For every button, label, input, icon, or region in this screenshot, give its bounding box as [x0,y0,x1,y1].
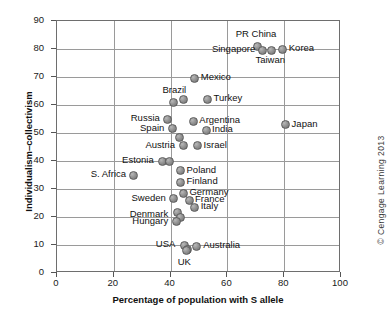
y-axis-tick-mark [51,244,56,245]
gridline-vertical [227,21,228,271]
data-point-label: UK [178,257,191,267]
gridline-horizontal [57,161,339,162]
data-point-label: Brazil [162,85,186,95]
data-point-label: Israel [204,140,227,150]
data-point [163,115,172,124]
data-point [169,98,178,107]
y-axis-tick-mark [51,132,56,133]
data-point-label: Finland [187,176,218,186]
data-point-label: India [212,124,233,134]
data-point-label: Spain [140,123,164,133]
data-point-label: Taiwan [255,55,285,65]
data-point-label: Austria [145,140,175,150]
gridline-horizontal [57,217,339,218]
data-point-label: Singapore [212,44,255,54]
x-axis-tick-label: 60 [206,278,246,288]
gridline-horizontal [57,133,339,134]
gridline-horizontal [57,105,339,106]
data-point [129,171,138,180]
data-point [179,141,188,150]
data-point [203,95,212,104]
data-point [192,242,201,251]
data-point [278,45,287,54]
data-point [165,157,174,166]
gridline-vertical [114,21,115,271]
y-axis-tick-mark [51,216,56,217]
copyright-credit: © Cengage Learning 2013 [376,100,386,280]
x-axis-tick-label: 100 [320,278,360,288]
x-axis-tick-label: 80 [263,278,303,288]
data-point-label: Mexico [201,72,231,82]
data-point-label: Italy [201,201,218,211]
data-point-label: Japan [292,119,318,129]
data-point [202,126,211,135]
data-point [182,246,191,255]
data-point [176,178,185,187]
data-point-label: Poland [187,165,217,175]
x-axis-tick-label: 20 [93,278,133,288]
data-point-label: Sweden [131,193,165,203]
scatter-chart: 0102030405060708090020406080100 Percenta… [0,0,390,322]
y-axis-tick-mark [51,48,56,49]
data-point-label: Australia [203,240,240,250]
x-axis-title: Percentage of population with S allele [56,294,340,305]
y-axis-tick-label: 90 [14,15,44,25]
y-axis-title: Individualism–collectivism [23,32,34,272]
data-point [168,124,177,133]
data-point [190,203,199,212]
data-point [172,217,181,226]
data-point-label: USA [156,239,176,249]
y-axis-tick-mark [51,104,56,105]
y-axis-tick-mark [51,188,56,189]
y-axis-tick-mark [51,20,56,21]
x-axis-tick-label: 0 [36,278,76,288]
data-point [179,95,188,104]
data-point-label: Estonia [122,155,154,165]
data-point-label: Hungary [132,216,168,226]
y-axis-tick-mark [51,160,56,161]
data-point-label: S. Africa [91,169,126,179]
data-point-label: Turkey [214,93,243,103]
data-point-label: Korea [289,43,314,53]
y-axis-tick-mark [51,76,56,77]
x-axis-tick-label: 40 [150,278,190,288]
data-point-label: PR China [236,29,277,39]
